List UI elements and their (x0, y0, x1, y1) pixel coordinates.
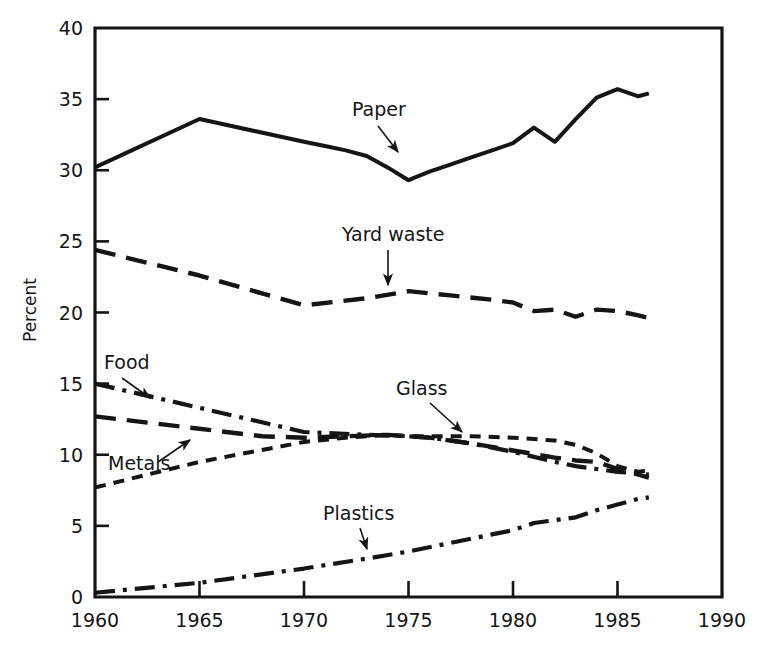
leader-arrow-metals (158, 440, 190, 462)
series-label-glass: Glass (396, 377, 447, 399)
y-tick-label: 10 (59, 444, 83, 466)
y-tick-label: 20 (59, 302, 83, 324)
series-line-food (95, 384, 649, 475)
y-axis-tick-labels: 0510152025303540 (59, 17, 83, 608)
x-tick-label: 1990 (698, 609, 746, 631)
x-tick-label: 1975 (384, 609, 432, 631)
x-tick-label: 1985 (593, 609, 641, 631)
y-tick-label: 0 (71, 586, 83, 608)
line-chart: 0510152025303540 19601965197019751980198… (0, 0, 767, 650)
series-annotations: PaperYard wasteFoodMetalsGlassPlastics (104, 98, 462, 549)
y-axis-title: Percent (20, 278, 40, 342)
x-tick-label: 1965 (175, 609, 223, 631)
x-tick-label: 1970 (280, 609, 328, 631)
series-line-yard-waste (95, 250, 649, 318)
x-tick-label: 1960 (71, 609, 119, 631)
series-label-plastics: Plastics (323, 502, 394, 524)
y-tick-label: 30 (59, 159, 83, 181)
leader-arrow-paper (378, 126, 398, 152)
y-tick-label: 5 (71, 515, 83, 537)
series-label-yard-waste: Yard waste (341, 223, 444, 245)
leader-arrow-plastics (360, 528, 367, 549)
series-label-paper: Paper (352, 98, 406, 120)
y-tick-label: 40 (59, 17, 83, 39)
y-tick-label: 15 (59, 373, 83, 395)
leader-arrow-glass (430, 403, 462, 432)
series-label-metals: Metals (108, 452, 170, 474)
series-label-food: Food (104, 351, 150, 373)
y-tick-label: 35 (59, 88, 83, 110)
x-tick-label: 1980 (489, 609, 537, 631)
series-line-glass (95, 435, 649, 488)
y-tick-label: 25 (59, 230, 83, 252)
x-axis-tick-labels: 1960196519701975198019851990 (71, 609, 746, 631)
x-axis-ticks (200, 581, 618, 597)
chart-container: 0510152025303540 19601965197019751980198… (0, 0, 767, 650)
